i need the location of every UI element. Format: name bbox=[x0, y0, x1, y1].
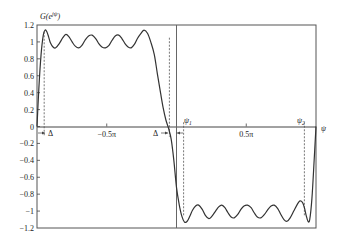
delta-left-annotation: Δ bbox=[38, 129, 53, 138]
y-tick-label: 0.6 bbox=[24, 72, 34, 81]
psi2-label: ψ2 bbox=[297, 116, 305, 126]
frequency-response-chart: 1.210.80.60.40.20−0.2−0.4−0.6−0.8−1−1.2 … bbox=[0, 0, 344, 238]
svg-text:Δ: Δ bbox=[153, 129, 158, 138]
y-tick-label: 0.2 bbox=[24, 106, 34, 115]
x-tick-label: 0.5π bbox=[239, 130, 253, 139]
svg-text:Δ: Δ bbox=[48, 129, 53, 138]
delta-right-annotation: Δ bbox=[153, 129, 183, 138]
y-axis-title: G(ejψ) bbox=[40, 11, 60, 21]
y-tick-label: −0.2 bbox=[19, 139, 34, 148]
psi1-label: ψ1 bbox=[184, 116, 192, 126]
x-axis-title: ψ bbox=[321, 124, 327, 133]
y-tick-label: 1 bbox=[30, 38, 34, 47]
y-tick-label: −0.8 bbox=[19, 190, 34, 199]
y-tick-label: −0.4 bbox=[19, 156, 34, 165]
x-axis-ticks: −0.5π0.5π bbox=[97, 124, 253, 139]
x-tick-label: −0.5π bbox=[97, 130, 116, 139]
y-tick-label: −1 bbox=[25, 207, 34, 216]
y-tick-label: 1.2 bbox=[24, 21, 34, 30]
y-tick-label: 0 bbox=[30, 123, 34, 132]
y-tick-label: 0.4 bbox=[24, 89, 34, 98]
y-tick-label: 0.8 bbox=[24, 55, 34, 64]
annotation-dashed-lines bbox=[44, 32, 304, 216]
y-tick-label: −0.6 bbox=[19, 173, 34, 182]
y-tick-label: −1.2 bbox=[19, 224, 34, 233]
